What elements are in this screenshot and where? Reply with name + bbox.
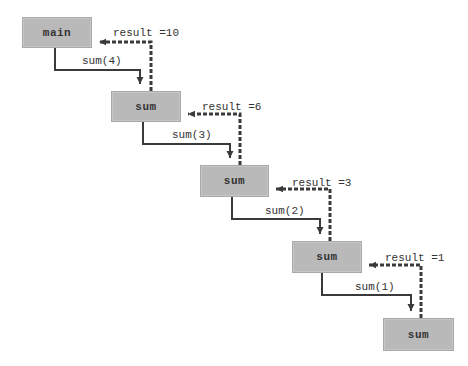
call-label-sum2: sum(2) <box>265 205 305 217</box>
recursion-diagram: main sum sum sum sum sum(4) sum(3) sum(2… <box>0 0 468 366</box>
return-label-6: result =6 <box>202 101 261 113</box>
call-label-sum4: sum(4) <box>82 55 122 67</box>
box-label: sum <box>316 251 337 263</box>
box-label: main <box>43 27 71 39</box>
box-sum-1: sum <box>111 91 181 122</box>
return-label-10: result =10 <box>113 27 179 39</box>
call-label-sum3: sum(3) <box>172 129 212 141</box>
box-sum-4: sum <box>383 318 454 351</box>
box-sum-2: sum <box>200 165 269 197</box>
box-label: sum <box>135 101 156 113</box>
return-label-1: result =1 <box>385 252 444 264</box>
call-label-sum1: sum(1) <box>355 281 395 293</box>
return-label-3: result =3 <box>292 177 351 189</box>
box-sum-3: sum <box>292 241 362 273</box>
box-main: main <box>22 17 92 48</box>
box-label: sum <box>408 329 429 341</box>
box-label: sum <box>224 175 245 187</box>
caption-clipped <box>0 357 468 366</box>
